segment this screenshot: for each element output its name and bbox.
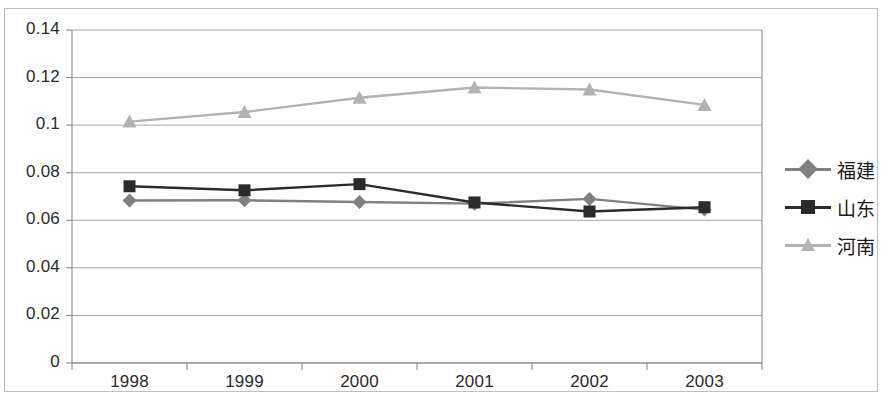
x-axis-tick-label: 2001 bbox=[430, 372, 520, 392]
data-point bbox=[353, 195, 367, 209]
chart-legend: 福建 山东 河南 bbox=[785, 150, 881, 264]
data-point bbox=[583, 192, 597, 206]
y-axis-tick-label: 0.1 bbox=[8, 114, 60, 134]
x-axis-tick-label: 2003 bbox=[660, 372, 750, 392]
legend-label-henan: 河南 bbox=[837, 232, 875, 259]
data-point bbox=[124, 180, 136, 192]
chart-container: 0.140.120.10.080.060.040.020 19981999200… bbox=[0, 0, 886, 408]
y-axis-tick-label: 0.02 bbox=[8, 304, 60, 324]
legend-label-shandong: 山东 bbox=[837, 194, 875, 221]
y-axis-tick-label: 0.04 bbox=[8, 257, 60, 277]
legend-item-shandong: 山东 bbox=[785, 188, 881, 226]
data-point bbox=[699, 201, 711, 213]
data-point bbox=[469, 196, 481, 208]
legend-item-henan: 河南 bbox=[785, 226, 881, 264]
x-axis-tick-label: 1998 bbox=[85, 372, 175, 392]
y-axis-tick-label: 0.06 bbox=[8, 209, 60, 229]
series-markers bbox=[123, 81, 712, 218]
y-axis-tick-label: 0 bbox=[8, 352, 60, 372]
y-axis-tick-label: 0.14 bbox=[8, 19, 60, 39]
data-point bbox=[123, 194, 137, 208]
plot-area bbox=[0, 0, 886, 408]
x-axis-tick-label: 1999 bbox=[200, 372, 290, 392]
y-axis-tick-label: 0.12 bbox=[8, 67, 60, 87]
data-point bbox=[354, 178, 366, 190]
legend-label-fujian: 福建 bbox=[837, 156, 875, 183]
gridlines bbox=[72, 30, 762, 363]
data-point bbox=[584, 205, 596, 217]
x-axis-tick-label: 2000 bbox=[315, 372, 405, 392]
y-axis-tick-label: 0.08 bbox=[8, 162, 60, 182]
data-point bbox=[239, 184, 251, 196]
legend-key-triangle-icon bbox=[785, 236, 831, 254]
series-lines bbox=[130, 88, 705, 212]
legend-key-diamond-icon bbox=[785, 160, 831, 178]
legend-item-fujian: 福建 bbox=[785, 150, 881, 188]
legend-key-square-icon bbox=[785, 198, 831, 216]
x-axis-tick-label: 2002 bbox=[545, 372, 635, 392]
